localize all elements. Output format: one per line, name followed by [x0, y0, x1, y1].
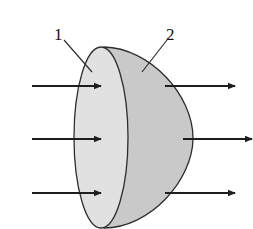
label-1-leader — [64, 40, 92, 72]
label-1: 1 — [54, 25, 63, 44]
flat-face — [74, 47, 128, 228]
hemisphere-flux-diagram: 1 2 — [0, 0, 253, 229]
label-2: 2 — [166, 25, 175, 44]
